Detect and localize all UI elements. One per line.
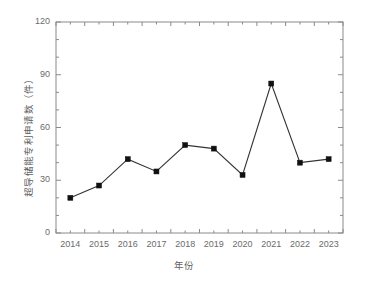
x-axis-label: 年份 xyxy=(0,258,368,272)
data-point-marker xyxy=(125,157,130,162)
data-point-marker xyxy=(297,160,302,165)
data-point-marker xyxy=(154,169,159,174)
data-point-marker xyxy=(326,157,331,162)
x-tick-label: 2023 xyxy=(311,239,347,249)
series-line xyxy=(70,84,328,198)
y-tick-label: 0 xyxy=(22,227,50,237)
data-point-marker xyxy=(240,172,245,177)
data-point-marker xyxy=(269,81,274,86)
data-point-marker xyxy=(68,195,73,200)
data-point-marker xyxy=(211,146,216,151)
chart-figure: 超导储能专利申请数（件） 年份 0306090120 2014201520162… xyxy=(0,0,368,284)
y-tick-label: 90 xyxy=(22,69,50,79)
y-tick-label: 60 xyxy=(22,122,50,132)
data-point-marker xyxy=(183,143,188,148)
y-tick-label: 120 xyxy=(22,16,50,26)
plot-frame xyxy=(56,22,343,233)
data-point-marker xyxy=(97,183,102,188)
y-axis-label: 超导储能专利申请数（件） xyxy=(21,55,35,215)
y-tick-label: 30 xyxy=(22,174,50,184)
